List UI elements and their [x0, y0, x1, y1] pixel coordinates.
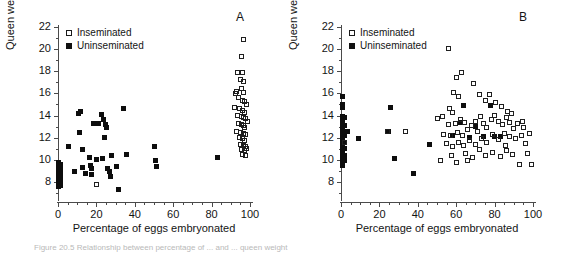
data-point-uninseminated	[215, 155, 220, 160]
y-tick-minor	[56, 193, 58, 194]
data-point-uninseminated	[87, 155, 92, 160]
filled-square-icon	[349, 43, 355, 49]
y-tick-major	[337, 27, 341, 28]
y-tick-minor	[56, 127, 58, 128]
data-point-inseminated	[467, 138, 472, 143]
x-tick-minor	[514, 203, 515, 205]
legend-label-uninseminated-a: Uninseminated	[77, 39, 144, 52]
y-tick-label: 18	[39, 64, 51, 76]
data-point-inseminated	[454, 160, 459, 165]
y-tick-minor	[339, 82, 341, 83]
data-point-inseminated	[499, 104, 504, 109]
data-point-inseminated	[496, 137, 501, 142]
x-tick-minor	[240, 203, 241, 205]
x-tick-minor	[183, 203, 184, 205]
data-point-uninseminated	[154, 164, 159, 169]
data-point-inseminated	[475, 129, 480, 134]
filled-square-icon	[66, 43, 72, 49]
data-point-uninseminated	[342, 153, 347, 158]
data-point-uninseminated	[340, 105, 345, 110]
data-point-uninseminated	[392, 156, 397, 161]
chart-panel-a: A Queen weight (mg) Percentage of eggs e…	[0, 0, 282, 253]
data-point-uninseminated	[83, 171, 88, 176]
data-point-uninseminated	[89, 172, 94, 177]
data-point-inseminated	[461, 143, 466, 148]
data-point-inseminated	[520, 119, 525, 124]
data-point-uninseminated	[104, 125, 109, 130]
x-tick-label: 100	[518, 208, 548, 220]
y-tick-label: 12	[39, 131, 51, 143]
x-tick-minor	[389, 203, 390, 205]
legend-item-inseminated-b: Inseminated	[349, 26, 427, 39]
data-point-inseminated	[438, 158, 443, 163]
y-tick-label: 16	[39, 86, 51, 98]
x-tick-major	[58, 203, 59, 207]
data-point-inseminated	[489, 117, 494, 122]
x-tick-minor	[399, 203, 400, 205]
data-point-inseminated	[446, 122, 451, 127]
data-point-inseminated	[440, 114, 445, 119]
data-point-uninseminated	[152, 144, 157, 149]
data-point-inseminated	[449, 153, 454, 158]
data-point-inseminated	[507, 134, 512, 139]
data-point-uninseminated	[77, 130, 82, 135]
data-point-inseminated	[435, 116, 440, 121]
data-point-inseminated	[493, 100, 498, 105]
data-point-uninseminated	[340, 163, 345, 168]
data-point-inseminated	[244, 146, 249, 151]
data-point-uninseminated	[124, 152, 129, 157]
data-point-uninseminated	[342, 115, 347, 120]
x-tick-minor	[192, 203, 193, 205]
chart-panel-b: B Queen weight (mg) Percentage of eggs e…	[283, 0, 565, 253]
data-point-uninseminated	[89, 166, 94, 171]
x-tick-minor	[68, 203, 69, 205]
data-point-inseminated	[478, 114, 483, 119]
data-point-uninseminated	[342, 133, 347, 138]
data-point-uninseminated	[66, 144, 71, 149]
data-point-inseminated	[479, 136, 484, 141]
data-point-inseminated	[243, 153, 248, 158]
x-tick-minor	[125, 203, 126, 205]
x-tick-minor	[77, 203, 78, 205]
x-tick-minor	[116, 203, 117, 205]
y-tick-label: 10	[39, 153, 51, 165]
x-tick-major	[456, 203, 457, 207]
x-tick-minor	[475, 203, 476, 205]
x-tick-minor	[154, 203, 155, 205]
y-tick-major	[337, 49, 341, 50]
y-axis-label-a: Queen weight (mg)	[4, 0, 16, 50]
data-point-inseminated	[448, 133, 453, 138]
x-tick-label: 20	[364, 208, 394, 220]
y-tick-major	[337, 71, 341, 72]
data-point-uninseminated	[427, 142, 432, 147]
x-tick-minor	[427, 203, 428, 205]
x-tick-major	[533, 203, 534, 207]
data-point-inseminated	[460, 133, 465, 138]
x-tick-minor	[485, 203, 486, 205]
y-tick-label: 22	[39, 20, 51, 32]
x-tick-label: 40	[120, 208, 150, 220]
data-point-uninseminated	[388, 105, 393, 110]
x-tick-major	[495, 203, 496, 207]
y-tick-label: 8	[328, 175, 334, 187]
data-point-inseminated	[469, 123, 474, 128]
x-tick-minor	[370, 203, 371, 205]
x-tick-label: 100	[235, 208, 265, 220]
x-tick-minor	[466, 203, 467, 205]
data-point-inseminated	[385, 129, 390, 134]
y-tick-minor	[339, 171, 341, 172]
x-tick-major	[96, 203, 97, 207]
legend-label-inseminated-b: Inseminated	[360, 26, 414, 39]
data-point-inseminated	[459, 70, 464, 75]
data-point-inseminated	[527, 131, 532, 136]
y-tick-minor	[56, 149, 58, 150]
y-tick-minor	[339, 38, 341, 39]
data-point-inseminated	[507, 120, 512, 125]
data-point-inseminated	[500, 122, 505, 127]
data-point-inseminated	[519, 133, 524, 138]
y-tick-label: 18	[322, 64, 334, 76]
y-tick-label: 14	[322, 109, 334, 121]
data-point-inseminated	[245, 119, 250, 124]
data-point-inseminated	[444, 141, 449, 146]
data-point-uninseminated	[153, 158, 158, 163]
